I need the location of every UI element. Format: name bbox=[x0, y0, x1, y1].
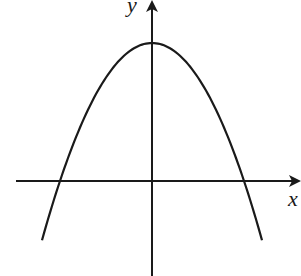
x-axis-label: x bbox=[288, 188, 298, 210]
graph-canvas bbox=[0, 0, 301, 276]
y-axis-label: y bbox=[127, 0, 137, 16]
